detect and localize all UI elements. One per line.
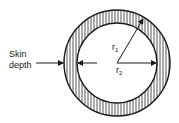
skin-depth-label: Skin depth xyxy=(9,49,32,71)
r1-subscript: 1 xyxy=(115,47,118,53)
skin-label-line1: Skin xyxy=(9,49,32,60)
r2-label: r2 xyxy=(116,66,122,76)
r1-label: r1 xyxy=(112,43,118,53)
skin-label-line2: depth xyxy=(9,60,32,71)
skin-depth-diagram: Skin depth r1 r2 xyxy=(0,0,179,123)
r2-subscript: 2 xyxy=(119,70,122,76)
